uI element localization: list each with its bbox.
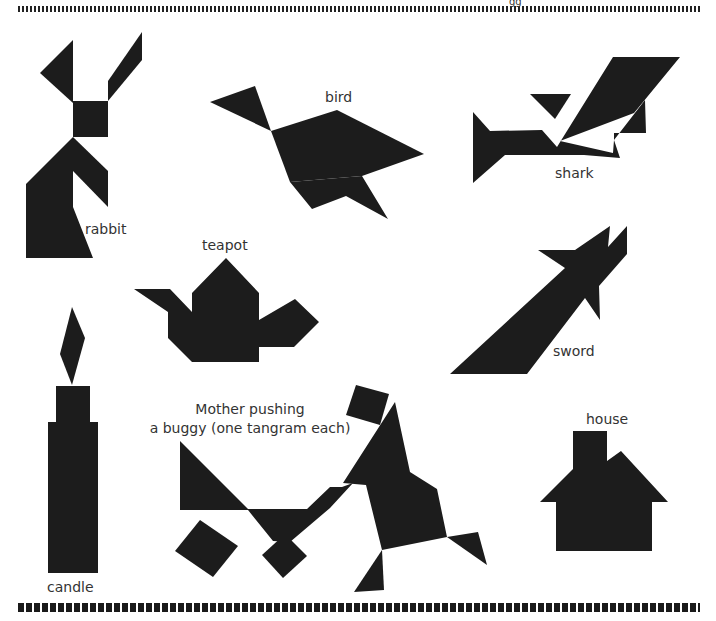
house-figure bbox=[540, 431, 668, 551]
mother-buggy-label-line2: a buggy (one tangram each) bbox=[134, 419, 366, 437]
bird-figure bbox=[210, 86, 424, 219]
mother-figure bbox=[343, 385, 487, 592]
house-label: house bbox=[586, 410, 628, 428]
candle-label: candle bbox=[47, 578, 94, 596]
buggy-figure bbox=[175, 441, 353, 578]
shark-label: shark bbox=[555, 164, 594, 182]
sword-label: sword bbox=[553, 342, 595, 360]
mother-buggy-label-line1: Mother pushing bbox=[170, 400, 330, 418]
teapot-figure bbox=[134, 258, 319, 362]
bottom-decorative-border bbox=[18, 603, 700, 612]
tangram-figures-page: gg bbox=[0, 0, 716, 621]
rabbit-label: rabbit bbox=[85, 220, 127, 238]
teapot-label: teapot bbox=[202, 236, 248, 254]
sword-figure bbox=[450, 226, 627, 374]
candle-figure bbox=[48, 307, 98, 573]
tangram-illustrations bbox=[0, 0, 716, 621]
bird-label: bird bbox=[325, 88, 352, 106]
